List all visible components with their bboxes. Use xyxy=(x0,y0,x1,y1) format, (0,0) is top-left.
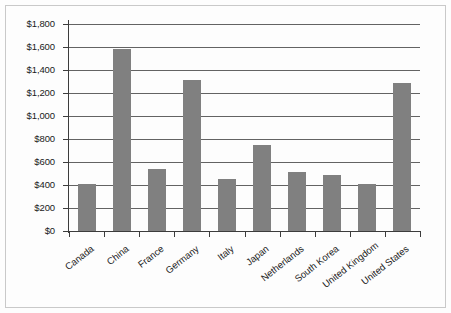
y-axis-tick-label: $0 xyxy=(7,225,55,236)
bar[interactable] xyxy=(113,49,131,231)
y-axis-tick-label: $600 xyxy=(7,156,55,167)
bar-chart-figure: $0$200$400$600$800$1,000$1,200$1,400$1,6… xyxy=(0,0,451,313)
y-axis-tick-label: $1,800 xyxy=(7,18,55,29)
y-axis-tick-label: $800 xyxy=(7,133,55,144)
gridline xyxy=(69,24,420,25)
bar[interactable] xyxy=(218,179,236,231)
y-axis-tick-label: $200 xyxy=(7,202,55,213)
bar[interactable] xyxy=(323,175,341,231)
bar[interactable] xyxy=(288,172,306,231)
y-axis-tick xyxy=(63,231,69,232)
bar[interactable] xyxy=(148,169,166,231)
y-axis-tick-label: $1,200 xyxy=(7,87,55,98)
bar[interactable] xyxy=(78,184,96,231)
y-axis-tick-label: $1,600 xyxy=(7,41,55,52)
y-axis-tick-label: $1,400 xyxy=(7,64,55,75)
gridline xyxy=(69,47,420,48)
y-axis-tick-label: $1,000 xyxy=(7,110,55,121)
bar[interactable] xyxy=(183,80,201,231)
bar[interactable] xyxy=(253,145,271,231)
plot-area xyxy=(69,24,420,231)
bar[interactable] xyxy=(358,184,376,231)
y-axis-tick-label: $400 xyxy=(7,179,55,190)
x-axis-line xyxy=(68,231,421,232)
bar[interactable] xyxy=(393,83,411,231)
